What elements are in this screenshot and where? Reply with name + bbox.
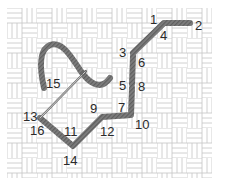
stitch-label-11: 11 [64, 125, 78, 138]
stitch-label-9: 9 [90, 102, 97, 115]
stitch-label-1: 1 [150, 13, 157, 26]
stitch-label-14: 14 [63, 154, 77, 167]
stitch-label-10: 10 [135, 118, 149, 131]
stitch-diagram: 1 2 3 4 5 6 7 8 9 10 11 12 13 14 15 16 [0, 0, 226, 189]
stitch-label-8: 8 [138, 80, 145, 93]
stitch-label-2: 2 [195, 19, 202, 32]
stitch-label-3: 3 [119, 46, 126, 59]
stitch-label-7: 7 [118, 101, 125, 114]
canvas-grid [0, 0, 226, 189]
canvas-mesh [7, 8, 212, 178]
stitch-label-15: 15 [46, 77, 60, 90]
stitch-label-13: 13 [23, 110, 37, 123]
stitch-label-5: 5 [119, 79, 126, 92]
stitch-label-12: 12 [100, 125, 114, 138]
stitch-label-6: 6 [138, 56, 145, 69]
stitch-label-16: 16 [30, 124, 44, 137]
stitch-label-4: 4 [160, 29, 167, 42]
